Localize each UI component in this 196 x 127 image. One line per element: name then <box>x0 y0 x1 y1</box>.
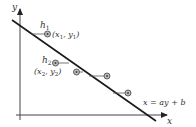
regression-diagram: y x h1 (x1, y1) h2 (x2, y2) x = ay + b <box>0 0 196 127</box>
data-point-1 <box>45 31 51 37</box>
data-point-5 <box>125 90 131 96</box>
point-1-coord-label: (x1, y1) <box>52 30 79 40</box>
data-point-4 <box>104 73 110 79</box>
regression-equation-label: x = ay + b <box>143 98 186 107</box>
x-axis-label: x <box>167 116 172 126</box>
residual-label-h2: h2 <box>42 55 52 66</box>
data-point-3 <box>74 69 80 75</box>
residual-label-h1: h1 <box>40 20 50 31</box>
data-point-2 <box>53 60 59 66</box>
point-2-coord-label: (x2, y2) <box>34 67 61 77</box>
y-axis-label: y <box>11 2 18 12</box>
